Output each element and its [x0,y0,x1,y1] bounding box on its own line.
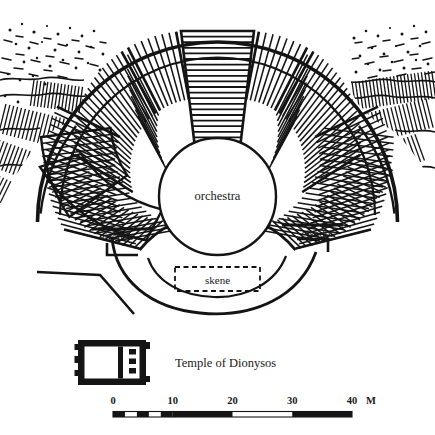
scale-tick-30: 30 [287,395,298,406]
scale-tick-20: 20 [227,395,238,406]
scale-tick-10: 10 [168,395,179,406]
temple-label: Temple of Dionysos [175,356,276,370]
scale-tick-40: 40 [347,395,358,406]
skene-label: skene [205,274,230,286]
eisodos-label-right: eisodos [302,227,335,239]
scale-tick-0: 0 [110,395,115,406]
scale-unit-label: M [366,395,376,406]
cavea-wedge-central [181,31,254,148]
eisodos-label-left: eisodos [100,230,133,242]
theatre-site-plan: orchestra eisodos eisodos skene Temple o… [0,0,435,435]
orchestra-label: orchestra [195,189,241,203]
